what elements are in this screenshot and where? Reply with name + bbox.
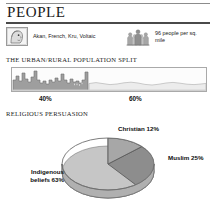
religion-section-title: RELIGIOUS PERSUASION (6, 110, 88, 117)
urban-rural-split-chart (11, 67, 207, 92)
rural-percent-label: 60% (129, 95, 142, 102)
population-density-fact: 96 people per sq. mile (126, 27, 203, 46)
head-profile-icon (6, 27, 28, 46)
religious-persuasion-pie-chart: Christian 12% Muslim 25% Indigenous beli… (0, 118, 216, 204)
ethnic-groups-fact: Akan, French, Kru, Voltaic (6, 27, 95, 46)
pie-label-indigenous-line1: Indigenous (31, 168, 64, 175)
people-infographic-panel: PEOPLE Akan, French, Kru, Voltaic (0, 0, 216, 204)
urban-rural-percent-labels: 40% 60% (11, 95, 207, 104)
urban-percent-label: 40% (39, 95, 52, 102)
ethnic-groups-label: Akan, French, Kru, Voltaic (33, 33, 95, 40)
pie-label-indigenous: Indigenous beliefs 63% (8, 168, 64, 183)
crowd-people-icon (126, 27, 150, 46)
population-density-label: 96 people per sq. mile (155, 30, 203, 44)
pie-label-indigenous-line2: beliefs 63% (30, 176, 64, 183)
pie-label-christian: Christian 12% (118, 125, 159, 133)
facts-row: Akan, French, Kru, Voltaic (0, 27, 216, 51)
title-divider (6, 22, 210, 24)
pie-label-muslim: Muslim 25% (168, 154, 203, 162)
page-title: PEOPLE (7, 4, 66, 21)
urban-rural-section-title: THE URBAN/RURAL POPULATION SPLIT (6, 56, 137, 63)
